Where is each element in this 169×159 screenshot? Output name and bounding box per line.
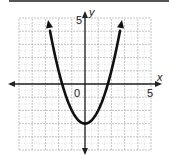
coordinate-plane: 5 y x 5 0 [0, 0, 169, 159]
x-axis-left-arrow [8, 81, 15, 87]
y-max-label: 5 [76, 14, 82, 26]
y-axis-up-arrow [82, 11, 88, 18]
y-axis-label: y [88, 6, 96, 18]
origin-label: 0 [74, 87, 80, 99]
y-axis-down-arrow [82, 148, 88, 155]
axes [8, 11, 162, 155]
x-max-label: 5 [147, 87, 153, 99]
x-axis-label: x [156, 71, 163, 83]
